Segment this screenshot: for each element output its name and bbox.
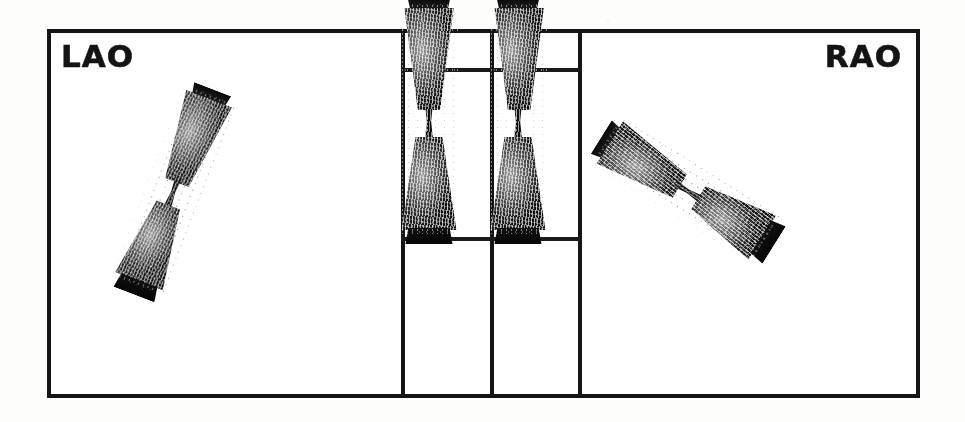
- panel-label-rao: RAO: [825, 41, 902, 72]
- figure-canvas: LAO RAO: [0, 0, 965, 422]
- panel-label-lao: LAO: [61, 41, 134, 72]
- panel-divider-3: [578, 29, 582, 398]
- scan-upper-lobe-center-right: [490, 8, 546, 110]
- scan-upper-lobe-center-left: [401, 8, 457, 110]
- scan-object-center-left: [401, 8, 457, 230]
- scan-lower-lobe-center-right: [490, 137, 546, 230]
- scan-foot-center-right: [494, 228, 541, 244]
- figure-alt-text: Four-panel photocopied scintigram: left …: [0, 16, 1, 17]
- scan-foot-center-left: [405, 228, 452, 244]
- scan-lower-lobe-center-left: [401, 137, 457, 230]
- scan-object-center-right: [490, 8, 546, 230]
